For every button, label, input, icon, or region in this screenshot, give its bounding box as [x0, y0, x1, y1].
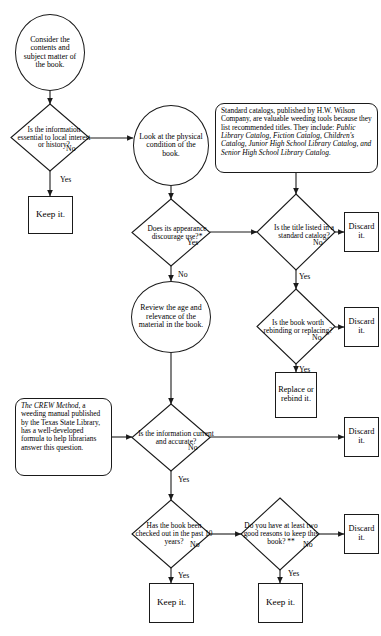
terminal-keep-3: Keep it.: [258, 583, 303, 623]
edge-label-current-yes: Yes: [178, 476, 189, 484]
note-crew-method-text: , a weeding manual published by the Texa…: [21, 401, 100, 452]
edge-label-appearance-yes: Yes: [187, 239, 198, 247]
edge-label-two-reasons-yes: Yes: [288, 570, 299, 578]
terminal-keep-2: Keep it.: [149, 583, 194, 623]
note-crew-method: The CREW Method, a weeding manual publis…: [15, 398, 112, 476]
terminal-keep-2-label: Keep it.: [157, 598, 186, 608]
process-review-age-label: Review the age and relevance of the mate…: [136, 304, 206, 329]
edge-label-catalog-no: No: [313, 239, 323, 247]
terminal-discard-4-label: Discard it.: [345, 525, 378, 543]
terminal-keep-1: Keep it.: [28, 196, 73, 234]
decision-worth-rebinding-label: Is the book worth rebinding or replacing…: [259, 319, 337, 335]
terminal-replace-rebind: Replace or rebind it.: [275, 372, 317, 418]
process-review-age: Review the age and relevance of the mate…: [131, 281, 211, 353]
decision-appearance: Does its appearance discourage use?*: [132, 199, 210, 266]
note-standard-catalogs: Standard catalogs, published by H.W. Wil…: [215, 103, 378, 173]
decision-checked-out-label: Has the book been checked out in the pas…: [135, 522, 213, 546]
terminal-discard-1-label: Discard it.: [345, 223, 378, 241]
flowchart-canvas: Consider the contents and subject matter…: [0, 0, 381, 636]
decision-standard-catalog-label: Is the title listed in a standard catalo…: [265, 224, 343, 240]
terminal-discard-2: Discard it.: [344, 307, 379, 347]
decision-local-interest-label: Is the information essential to local in…: [15, 126, 93, 150]
decision-appearance-label: Does its appearance discourage use?*: [138, 225, 216, 241]
edge-label-local-yes: Yes: [60, 176, 71, 184]
decision-two-reasons: Do you have at least two good reasons to…: [241, 498, 319, 570]
terminal-discard-3-label: Discard it.: [345, 428, 378, 446]
edge-label-checked-out-yes: Yes: [178, 572, 189, 580]
edge-label-appearance-no: No: [178, 271, 188, 279]
decision-checked-out: Has the book been checked out in the pas…: [132, 500, 210, 568]
terminal-discard-4: Discard it.: [344, 514, 379, 554]
decision-current-accurate: Is the information current and accurate?: [132, 404, 210, 471]
terminal-keep-1-label: Keep it.: [36, 210, 65, 220]
edge-label-two-reasons-no: No: [303, 541, 313, 549]
decision-local-interest: Is the information essential to local in…: [11, 104, 89, 171]
decision-current-accurate-label: Is the information current and accurate?: [137, 430, 215, 446]
decision-worth-rebinding: Is the book worth rebinding or replacing…: [257, 289, 335, 364]
process-consider-contents-label: Consider the contents and subject matter…: [21, 36, 79, 70]
edge-label-local-no: No: [66, 145, 76, 153]
terminal-keep-3-label: Keep it.: [266, 598, 295, 608]
terminal-replace-rebind-label: Replace or rebind it.: [276, 386, 316, 404]
terminal-discard-1: Discard it.: [344, 212, 379, 252]
edge-label-checked-out-no: No: [190, 541, 200, 549]
edge-label-rebinding-no: No: [312, 334, 322, 342]
terminal-discard-2-label: Discard it.: [345, 318, 378, 336]
edge-label-rebinding-yes: Yes: [299, 366, 310, 374]
process-consider-contents: Consider the contents and subject matter…: [15, 14, 85, 91]
edge-label-catalog-yes: Yes: [299, 273, 310, 281]
edge-label-current-no: No: [188, 444, 198, 452]
process-physical-condition: Look at the physical condition of the bo…: [133, 105, 209, 186]
process-physical-condition-label: Look at the physical condition of the bo…: [139, 133, 203, 158]
decision-standard-catalog: Is the title listed in a standard catalo…: [257, 194, 335, 270]
terminal-discard-3: Discard it.: [344, 417, 379, 457]
